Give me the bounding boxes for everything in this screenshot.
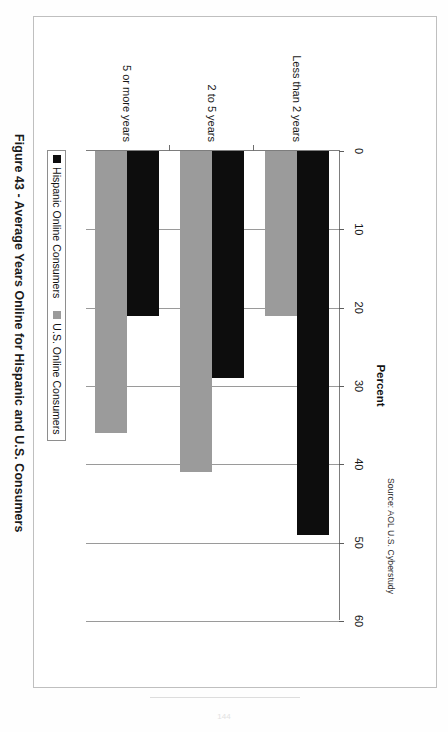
x-axis-tick	[339, 543, 344, 544]
bar-0	[297, 151, 329, 535]
x-axis-tick	[339, 229, 344, 230]
chart-legend: Hispanic Online ConsumersU.S. Online Con…	[47, 150, 66, 441]
bar-0	[212, 151, 244, 378]
x-axis-title: Percent	[375, 364, 387, 406]
x-axis-tick-label: 10	[353, 223, 365, 235]
legend-entry: U.S. Online Consumers	[51, 311, 63, 434]
legend-swatch-icon	[53, 311, 61, 319]
page-bottom-rule	[150, 697, 300, 698]
plot-area: Percent 0102030405060Less than 2 years2 …	[86, 150, 340, 620]
figure-caption-text: Figure 43 - Average Years Online for His…	[12, 134, 26, 694]
figure-caption: Figure 43 - Average Years Online for His…	[0, 0, 34, 700]
bar-chart: Percent 0102030405060Less than 2 years2 …	[36, 42, 396, 642]
bar-group: 5 or more years	[95, 151, 159, 620]
legend-swatch-icon	[53, 155, 61, 163]
x-gridline	[86, 621, 339, 622]
x-axis-tick	[339, 308, 344, 309]
legend-label: Hispanic Online Consumers	[51, 167, 63, 298]
x-axis-tick-label: 50	[353, 537, 365, 549]
category-label: Less than 2 years	[291, 55, 303, 142]
bar-group: Less than 2 years	[265, 151, 329, 620]
x-axis-tick	[339, 386, 344, 387]
bar-1	[265, 151, 297, 316]
x-axis-tick	[339, 151, 344, 152]
legend-entry: Hispanic Online Consumers	[51, 155, 63, 298]
x-axis-tick	[339, 464, 344, 465]
x-axis-tick	[339, 621, 344, 622]
x-axis-tick-label: 0	[353, 148, 365, 154]
bar-1	[95, 151, 127, 433]
x-axis-tick-label: 30	[353, 380, 365, 392]
x-axis-tick-label: 40	[353, 458, 365, 470]
bar-group: 2 to 5 years	[180, 151, 244, 620]
x-axis-tick-label: 20	[353, 302, 365, 314]
chart-rotation-wrapper: Percent 0102030405060Less than 2 years2 …	[36, 42, 396, 642]
bar-0	[127, 151, 159, 316]
legend-label: U.S. Online Consumers	[51, 323, 63, 434]
page-number: 144	[0, 712, 448, 721]
category-label: 5 or more years	[121, 65, 133, 142]
scanned-page: Figure 43 - Average Years Online for His…	[0, 0, 448, 732]
x-axis-tick-label: 60	[353, 615, 365, 627]
category-axis-tick	[253, 145, 254, 151]
category-label: 2 to 5 years	[206, 85, 218, 142]
category-axis-tick	[169, 145, 170, 151]
source-note: Source: AOL U.S. Cyberstudy	[386, 478, 396, 594]
bar-1	[180, 151, 212, 472]
